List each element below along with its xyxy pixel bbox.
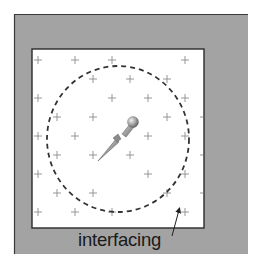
interfacing-diagram [0,0,262,263]
interfacing-label: interfacing [78,229,161,251]
